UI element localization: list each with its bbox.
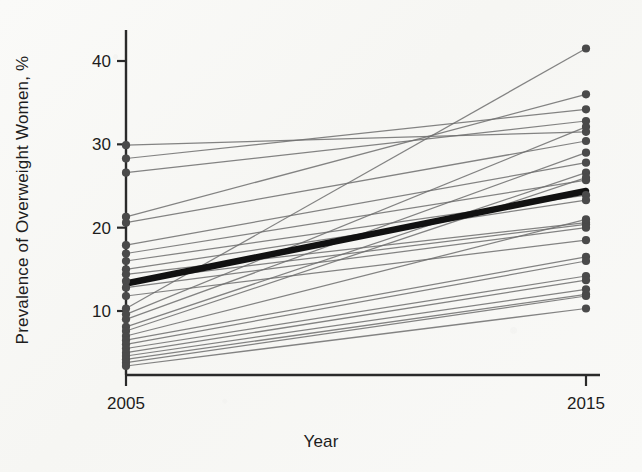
data-point-marker xyxy=(582,105,590,113)
x-tick-label: 2015 xyxy=(567,394,605,413)
country-trend-line xyxy=(126,180,586,253)
data-point-marker xyxy=(582,215,590,223)
country-trend-line xyxy=(126,296,586,363)
chart-figure: 1020304020052015 Prevalence of Overweigh… xyxy=(0,0,642,472)
data-point-marker xyxy=(122,284,130,292)
data-point-marker xyxy=(582,149,590,157)
data-point-marker xyxy=(582,123,590,131)
data-point-marker xyxy=(582,137,590,145)
series-layer xyxy=(126,49,586,367)
y-tick-label: 10 xyxy=(92,302,111,321)
country-trend-line xyxy=(126,261,586,344)
data-point-marker xyxy=(582,292,590,300)
data-point-marker xyxy=(582,257,590,265)
x-tick-label: 2005 xyxy=(107,394,145,413)
data-point-marker xyxy=(122,315,130,323)
data-point-marker xyxy=(122,154,130,162)
data-point-marker xyxy=(582,90,590,98)
y-axis-label: Prevalence of Overweight Women, % xyxy=(13,56,33,345)
y-tick-label: 30 xyxy=(92,135,111,154)
data-point-marker xyxy=(122,141,130,149)
data-point-marker xyxy=(582,174,590,182)
data-point-marker xyxy=(122,257,130,265)
data-point-marker xyxy=(582,159,590,167)
data-point-marker xyxy=(122,169,130,177)
data-point-marker xyxy=(582,224,590,232)
x-axis-label: Year xyxy=(0,432,642,452)
data-point-marker xyxy=(122,362,130,370)
data-point-marker xyxy=(122,241,130,249)
country-trend-line xyxy=(126,178,586,331)
data-point-marker xyxy=(582,44,590,52)
country-trend-line xyxy=(126,289,586,356)
y-tick-label: 20 xyxy=(92,219,111,238)
country-trend-line xyxy=(126,280,586,353)
country-trend-line xyxy=(126,121,586,173)
data-point-marker xyxy=(582,276,590,284)
data-point-marker xyxy=(122,249,130,257)
y-tick-label: 40 xyxy=(92,52,111,71)
y-axis-label-wrapper: Prevalence of Overweight Women, % xyxy=(0,0,46,400)
data-point-marker xyxy=(582,196,590,204)
data-point-marker xyxy=(122,219,130,227)
tick-layer: 1020304020052015 xyxy=(92,52,605,413)
data-point-marker xyxy=(582,304,590,312)
data-point-marker xyxy=(122,292,130,300)
slopegraph-plot: 1020304020052015 xyxy=(0,0,642,472)
data-point-marker xyxy=(582,236,590,244)
